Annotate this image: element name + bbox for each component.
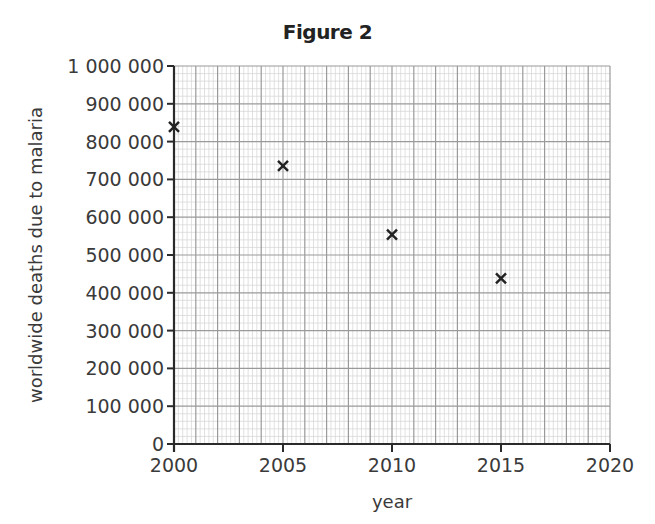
y-tick-label: 700 000 <box>85 168 164 190</box>
x-tick-label: 2005 <box>259 454 307 476</box>
x-tick-label: 2020 <box>586 454 634 476</box>
x-tick-label: 2015 <box>477 454 525 476</box>
x-axis-label: year <box>372 491 413 512</box>
x-tick-label: 2010 <box>368 454 416 476</box>
major-grid <box>174 66 610 444</box>
x-tick-label: 2000 <box>150 454 198 476</box>
y-axis-ticks: 0100 000200 000300 000400 000500 000600 … <box>67 55 174 455</box>
y-tick-label: 400 000 <box>85 282 164 304</box>
y-axis-label: worldwide deaths due to malaria <box>25 107 46 403</box>
x-axis-ticks: 20002005201020152020 <box>150 444 634 476</box>
y-tick-label: 200 000 <box>85 357 164 379</box>
y-tick-label: 1 000 000 <box>67 55 164 77</box>
y-tick-label: 600 000 <box>85 206 164 228</box>
y-tick-label: 100 000 <box>85 395 164 417</box>
y-tick-label: 800 000 <box>85 131 164 153</box>
y-tick-label: 500 000 <box>85 244 164 266</box>
y-tick-label: 300 000 <box>85 320 164 342</box>
axes <box>168 66 610 452</box>
y-tick-label: 900 000 <box>85 93 164 115</box>
data-points <box>169 122 506 284</box>
y-tick-label: 0 <box>152 433 164 455</box>
scatter-chart: 0100 000200 000300 000400 000500 000600 … <box>0 0 655 524</box>
